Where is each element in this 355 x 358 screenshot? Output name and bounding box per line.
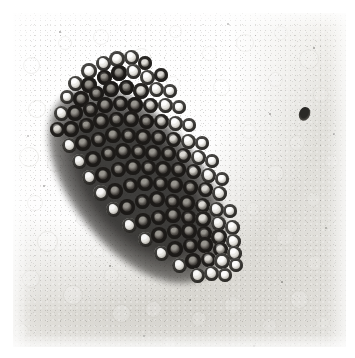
cluster-cell: [149, 82, 164, 97]
dust-fleck: [227, 23, 229, 25]
cluster-cell: [166, 132, 181, 147]
cluster-cell: [123, 111, 139, 127]
cluster-cell: [151, 130, 166, 145]
dust-fleck: [333, 133, 335, 135]
cluster-cell: [119, 80, 134, 95]
cluster-cell: [91, 132, 106, 147]
cluster-cell: [181, 134, 196, 149]
cluster-cell: [111, 162, 126, 177]
cluster-cell: [154, 114, 169, 129]
cluster-cell: [158, 98, 173, 113]
cluster-cell: [151, 227, 167, 243]
cluster-cell: [195, 136, 209, 150]
cluster-cell: [109, 112, 124, 127]
dust-fleck: [43, 185, 45, 187]
cluster-cell: [72, 154, 87, 169]
cluster-cell: [223, 204, 237, 218]
cluster-cell: [124, 50, 139, 65]
cluster-cell: [212, 186, 227, 201]
screenshot-root: [0, 0, 355, 358]
cluster-cell: [165, 207, 181, 223]
cluster-cell: [205, 154, 219, 168]
cluster-cell: [204, 266, 219, 281]
cluster-cell: [137, 175, 153, 191]
dust-fleck: [59, 31, 61, 33]
cluster-cell: [201, 168, 216, 183]
cluster-cell: [82, 170, 97, 185]
cluster-cell: [182, 118, 196, 132]
dust-fleck: [27, 135, 29, 137]
cluster-cell: [75, 135, 91, 151]
dust-fleck: [313, 47, 315, 49]
micrograph-plate: [13, 13, 346, 347]
dust-fleck: [189, 299, 191, 301]
cluster-cell: [93, 113, 109, 129]
cluster-cell: [135, 129, 151, 145]
cluster-cell: [155, 161, 171, 177]
cluster-cell: [119, 199, 135, 215]
cell-cluster: [13, 13, 346, 347]
dust-fleck: [281, 281, 283, 283]
cluster-cell: [85, 151, 101, 167]
cluster-cell: [123, 178, 138, 193]
cluster-cell: [183, 238, 198, 253]
cluster-cell: [167, 224, 182, 239]
cluster-cell: [154, 68, 168, 82]
cluster-cell: [121, 128, 136, 143]
cluster-cell: [191, 150, 206, 165]
cluster-cell: [167, 241, 183, 257]
cluster-cell: [172, 100, 186, 114]
cluster-cell: [185, 253, 201, 269]
cluster-cell: [106, 202, 121, 217]
cluster-cell: [179, 195, 195, 211]
cluster-cell: [139, 114, 154, 129]
cluster-cell: [135, 213, 151, 229]
cluster-cell: [145, 145, 161, 161]
cluster-cell: [115, 143, 131, 159]
cluster-cell: [125, 159, 141, 175]
cluster-cell: [209, 202, 224, 217]
cluster-cell: [141, 160, 156, 175]
cluster-cell: [215, 172, 229, 186]
cluster-cell: [113, 96, 128, 111]
cluster-cell: [135, 194, 150, 209]
cluster-cell: [62, 138, 77, 153]
cluster-cell: [171, 162, 186, 177]
dust-fleck: [109, 265, 111, 267]
cluster-cell: [107, 183, 123, 199]
cluster-cell: [225, 220, 240, 235]
cluster-cell: [176, 148, 191, 163]
cluster-cell: [198, 182, 213, 197]
cluster-cell: [190, 268, 205, 283]
dust-fleck: [253, 345, 255, 347]
cluster-cell: [143, 98, 158, 113]
cluster-cell: [60, 90, 74, 104]
cluster-cell: [218, 268, 232, 282]
cluster-cell: [126, 64, 141, 79]
cluster-cell: [131, 144, 146, 159]
cluster-cell: [97, 97, 113, 113]
cluster-cell: [101, 146, 116, 161]
cluster-cell: [163, 84, 177, 98]
cluster-cell: [95, 167, 111, 183]
cluster-cell: [168, 116, 183, 131]
cluster-cell: [195, 211, 211, 227]
cluster-cell: [186, 164, 201, 179]
cluster-cell: [111, 65, 127, 81]
cluster-cell: [153, 176, 168, 191]
cluster-cell: [183, 180, 198, 195]
cluster-cell: [149, 191, 165, 207]
cluster-cell: [167, 177, 183, 193]
cluster-cell: [229, 258, 243, 272]
cluster-cell: [103, 81, 119, 97]
cluster-cell: [151, 210, 166, 225]
dust-fleck: [325, 227, 327, 229]
cluster-cell: [79, 118, 94, 133]
cluster-cell: [181, 223, 197, 239]
cluster-cell: [63, 121, 79, 137]
cluster-cell: [197, 237, 213, 253]
cluster-cell: [105, 127, 121, 143]
cluster-cell: [214, 253, 230, 269]
cluster-cell: [67, 105, 83, 121]
cluster-cell: [161, 146, 176, 161]
